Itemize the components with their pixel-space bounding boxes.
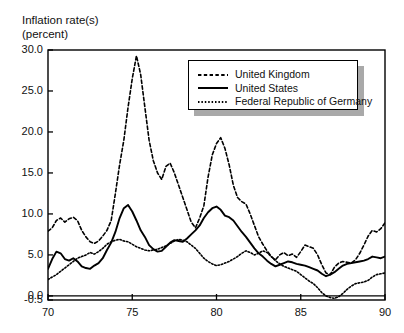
plot-area (0, 0, 404, 333)
inflation-rates-chart: Inflation rate(s) (percent) 30.025.020.0… (0, 0, 404, 333)
legend-swatch-dotted-line-icon (198, 97, 228, 107)
legend-label: United Kingdom (235, 69, 310, 80)
y-axis-tick-label: -0.5 (24, 293, 43, 305)
y-axis-tick-label: 30.0 (22, 43, 43, 55)
x-axis-tick-label: 90 (365, 306, 404, 318)
x-axis-tick-label: 80 (197, 306, 237, 318)
y-axis-tick-label: 10.0 (22, 207, 43, 219)
legend-swatch-solid-line-icon (198, 83, 228, 93)
legend-item-united-kingdom[interactable]: United Kingdom (198, 69, 310, 80)
legend-swatch-dashed-line-icon (198, 70, 228, 80)
legend-item-united-states[interactable]: United States (198, 83, 298, 94)
series-line-federal-republic-of-germany (48, 239, 385, 298)
y-axis-tick-label: 20.0 (22, 125, 43, 137)
y-axis-tick-label: 25.0 (22, 84, 43, 96)
y-axis-tick-label: 15.0 (22, 166, 43, 178)
x-axis-tick-label: 85 (281, 306, 321, 318)
legend-label: United States (235, 83, 298, 94)
x-axis-tick-label: 75 (112, 306, 152, 318)
legend-item-federal-republic-of-germany[interactable]: Federal Republic of Germany (198, 96, 372, 107)
x-axis-tick-label: 70 (28, 306, 68, 318)
legend-label: Federal Republic of Germany (235, 96, 372, 107)
chart-axis-title: Inflation rate(s) (percent) (22, 14, 99, 41)
legend: United KingdomUnited StatesFederal Repub… (188, 60, 358, 110)
y-axis-tick-label: 5.0 (28, 248, 43, 260)
